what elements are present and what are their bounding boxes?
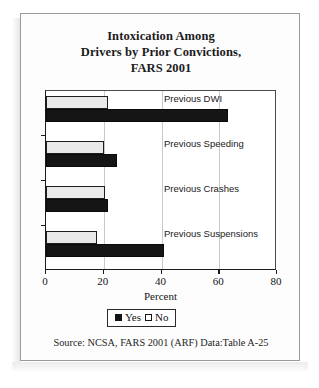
x-axis-tick [103,270,104,274]
x-axis-tick-label: 20 [88,275,118,287]
legend-swatch-yes-icon [115,314,122,321]
chart-title-line-3: FARS 2001 [21,60,301,76]
x-axis-tick-label: 40 [146,275,176,287]
scan-edge-shadow-bottom [12,362,308,372]
legend-label-no: No [155,312,168,323]
x-axis-tick-label: 0 [30,275,60,287]
bar-no [46,96,108,109]
bar-yes [46,244,164,257]
chart-legend: Yes No [107,309,176,327]
bar-no [46,141,104,154]
x-axis-tick [276,270,277,274]
legend-swatch-no-icon [145,314,152,321]
source-note: Source: NCSA, FARS 2001 (ARF) Data:Table… [21,337,301,348]
bar-yes [46,109,228,122]
bar-yes [46,199,108,212]
y-axis-tick [41,225,45,226]
chart-title-line-1: Intoxication Among [21,28,301,44]
plot-area: Previous DWIPrevious SpeedingPrevious Cr… [45,90,276,270]
y-axis-tick [41,180,45,181]
bar-group: Previous DWI [46,91,275,136]
x-axis-tick-label: 60 [203,275,233,287]
bar-no [46,231,97,244]
legend-item-yes: Yes [115,312,141,323]
x-axis-tick-label: 80 [261,275,291,287]
bar-no [46,186,105,199]
chart-title: Intoxication Among Drivers by Prior Conv… [21,28,301,76]
x-axis-title: Percent [45,290,276,302]
category-label: Previous Speeding [164,138,244,149]
legend-item-no: No [145,312,168,323]
x-axis-tick [218,270,219,274]
legend-label-yes: Yes [125,312,141,323]
bar-group: Previous Crashes [46,181,275,226]
chart-title-line-2: Drivers by Prior Convictions, [21,44,301,60]
x-axis-tick [161,270,162,274]
category-label: Previous Suspensions [164,228,258,239]
figure-card: Intoxication Among Drivers by Prior Conv… [20,13,300,361]
bar-yes [46,154,117,167]
x-axis-tick [45,270,46,274]
bar-group: Previous Speeding [46,136,275,181]
y-axis-tick [41,135,45,136]
category-label: Previous DWI [164,93,222,104]
scan-edge-shadow-left [12,18,20,366]
category-label: Previous Crashes [164,183,239,194]
bar-group: Previous Suspensions [46,226,275,271]
